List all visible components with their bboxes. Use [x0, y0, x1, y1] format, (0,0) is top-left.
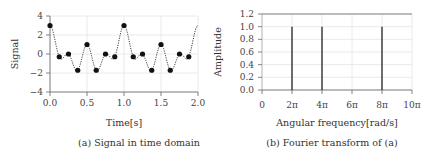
- sample-point: [94, 68, 99, 73]
- sample-point: [186, 54, 191, 59]
- sample-point: [121, 23, 126, 28]
- fourier-chart: 02π4π6π8π10π1.21.00.80.60.40.20.0Angular…: [212, 9, 421, 148]
- time-domain-chart: 0.00.51.01.52.0420−2−4Time[s]Signal(a) S…: [9, 11, 205, 148]
- y-tick-label: 0.4: [240, 60, 255, 70]
- x-tick-label: 0.5: [80, 98, 95, 108]
- x-axis-label: Angular frequency[rad/s]: [275, 117, 398, 128]
- x-tick-label: 0.0: [43, 98, 58, 108]
- y-tick-label: 0.6: [240, 47, 255, 57]
- x-tick-label: 6π: [346, 100, 358, 110]
- sample-point: [47, 23, 52, 28]
- y-tick-label: 0.8: [240, 34, 255, 44]
- sample-point: [177, 51, 182, 56]
- x-tick-label: 8π: [376, 100, 388, 110]
- figure: 0.00.51.01.52.0420−2−4Time[s]Signal(a) S…: [0, 0, 431, 156]
- sample-point: [75, 68, 80, 73]
- sample-point: [149, 68, 154, 73]
- x-tick-label: 1.0: [117, 98, 132, 108]
- y-tick-label: 0.2: [240, 72, 254, 82]
- sample-point: [103, 51, 108, 56]
- x-tick-label: 2π: [286, 100, 298, 110]
- x-tick-label: 0: [259, 100, 265, 110]
- sample-point: [131, 54, 136, 59]
- y-tick-label: 1.2: [240, 9, 254, 19]
- sample-point: [112, 54, 117, 59]
- y-tick-label: 1.0: [240, 22, 255, 32]
- sample-point: [158, 42, 163, 47]
- sample-point: [168, 68, 173, 73]
- x-axis-label: Time[s]: [106, 117, 142, 128]
- y-tick-label: 0: [37, 49, 43, 59]
- x-tick-label: 1.5: [154, 98, 169, 108]
- x-tick-label: 4π: [316, 100, 328, 110]
- y-tick-label: −4: [30, 87, 44, 97]
- sample-point: [140, 51, 145, 56]
- x-tick-label: 2.0: [191, 98, 206, 108]
- y-tick-label: 4: [37, 11, 43, 21]
- caption: (b) Fourier transform of (a): [266, 137, 397, 148]
- y-axis-label: Amplitude: [212, 27, 223, 78]
- caption: (a) Signal in time domain: [78, 137, 200, 148]
- y-tick-label: 0.0: [240, 85, 255, 95]
- sample-point: [57, 54, 62, 59]
- y-axis-label: Signal: [9, 39, 20, 69]
- y-tick-label: −2: [30, 68, 43, 78]
- sample-point: [66, 51, 71, 56]
- sample-point: [84, 42, 89, 47]
- y-tick-label: 2: [37, 30, 43, 40]
- x-tick-label: 10π: [403, 100, 420, 110]
